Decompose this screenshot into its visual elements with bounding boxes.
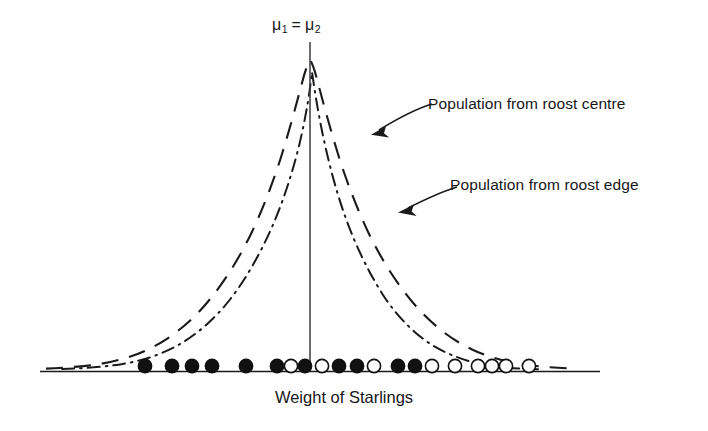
rug-point-filled (138, 359, 151, 372)
rug-point-filled (298, 359, 311, 372)
rug-point-filled (350, 359, 363, 372)
leader-line-roost-edge (398, 187, 457, 216)
x-axis-title: Weight of Starlings (0, 388, 708, 407)
mu-1-subscript: 1 (281, 23, 287, 35)
rug-points-group (138, 359, 535, 372)
rug-point-filled (270, 359, 283, 372)
x-axis-title-text: Weight of Starlings (275, 388, 413, 406)
rug-point-open (284, 359, 297, 372)
leader-line-roost-centre (371, 104, 432, 138)
mu-2-subscript: 2 (314, 23, 320, 35)
rug-point-filled (391, 359, 404, 372)
starling-weight-distribution-figure: μ1=μ2 Population from roost centre Popul… (0, 0, 708, 431)
rug-point-filled (165, 359, 178, 372)
rug-point-open (448, 359, 461, 372)
rug-point-open (471, 359, 484, 372)
rug-point-filled (185, 359, 198, 372)
rug-point-open (425, 359, 438, 372)
rug-point-filled (205, 359, 218, 372)
rug-point-filled (239, 359, 252, 372)
rug-point-open (522, 359, 535, 372)
annotation-roost-edge: Population from roost edge (450, 176, 639, 194)
mu-2-symbol: μ (305, 16, 314, 33)
rug-point-open (367, 359, 380, 372)
mean-equality-label: μ1=μ2 (272, 16, 320, 35)
annotation-roost-centre: Population from roost centre (428, 95, 626, 113)
mu-1-symbol: μ (272, 16, 281, 33)
rug-point-open (315, 359, 328, 372)
rug-point-open (485, 359, 498, 372)
rug-point-filled (408, 359, 421, 372)
distribution-plot (0, 0, 708, 431)
curve-roost-edge (62, 72, 538, 369)
equals-sign: = (288, 16, 305, 33)
rug-point-open (499, 359, 512, 372)
rug-point-filled (332, 359, 345, 372)
